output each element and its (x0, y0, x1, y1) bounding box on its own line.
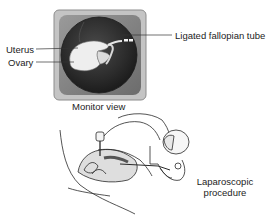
monitor (54, 10, 146, 100)
label-ligated-fallopian-tube: Ligated fallopian tube (175, 30, 265, 41)
ligation-clip-2 (129, 39, 133, 42)
caption-monitor-view: Monitor view (72, 101, 125, 112)
patient-leg (68, 188, 110, 196)
surgical-scene (60, 114, 189, 214)
caption-line-2: procedure (190, 187, 260, 198)
surgeon-arm (104, 122, 160, 140)
ligation-clip-1 (124, 39, 128, 42)
caption-laparoscopic-procedure: Laparoscopic procedure (190, 176, 260, 198)
surgeon-forearm (160, 168, 172, 178)
label-ovary: Ovary (8, 57, 33, 68)
surgeon-hand (175, 163, 181, 169)
caption-line-1: Laparoscopic (190, 176, 260, 187)
label-uterus: Uterus (6, 44, 34, 55)
trocar-handle (96, 132, 104, 141)
scope-cable (150, 146, 158, 164)
surgeon-back (118, 114, 170, 150)
